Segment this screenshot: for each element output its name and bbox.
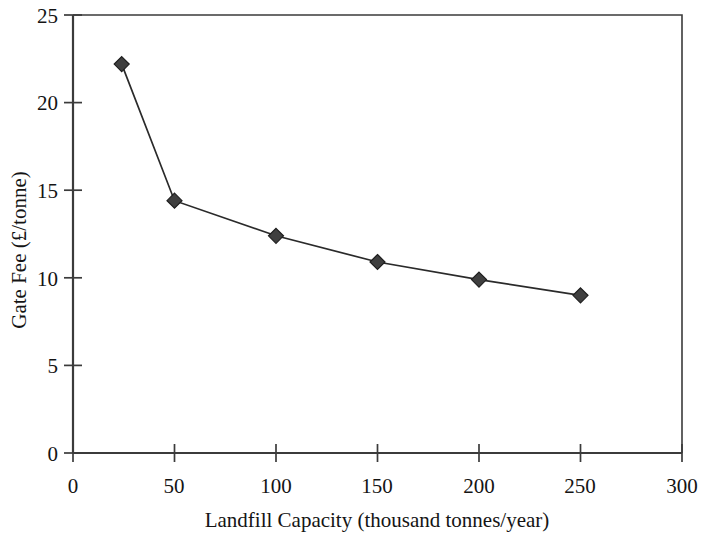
- y-tick-label-5: 5: [48, 354, 59, 378]
- y-tick-label-15: 15: [37, 179, 58, 203]
- x-tick-label-50: 50: [164, 474, 185, 498]
- data-point-marker: [167, 193, 182, 208]
- y-axis-tick-labels: 0 5 10 15 20 25: [37, 4, 58, 466]
- data-series-gate-fee: [114, 57, 588, 303]
- y-tick-label-0: 0: [48, 442, 59, 466]
- x-tick-label-250: 250: [564, 474, 596, 498]
- series-markers: [114, 57, 588, 303]
- x-tick-label-150: 150: [361, 474, 393, 498]
- series-line: [122, 64, 581, 295]
- data-point-marker: [114, 57, 129, 72]
- y-tick-label-10: 10: [37, 267, 58, 291]
- chart-container: 0 5 10 15 20 25 0 50 100 150 200 250 300: [0, 0, 702, 534]
- data-point-marker: [370, 255, 385, 270]
- data-point-marker: [573, 288, 588, 303]
- x-tick-label-100: 100: [260, 474, 292, 498]
- data-point-marker: [472, 272, 487, 287]
- line-chart: 0 5 10 15 20 25 0 50 100 150 200 250 300: [0, 0, 702, 534]
- x-tick-label-300: 300: [666, 474, 698, 498]
- x-tick-label-200: 200: [463, 474, 495, 498]
- x-tick-label-0: 0: [68, 474, 79, 498]
- data-point-marker: [269, 228, 284, 243]
- y-axis-title: Gate Fee (£/tonne): [7, 171, 31, 328]
- plot-frame: [73, 15, 682, 453]
- y-tick-label-25: 25: [37, 4, 58, 28]
- y-tick-label-20: 20: [37, 91, 58, 115]
- x-axis-tick-labels: 0 50 100 150 200 250 300: [68, 474, 698, 498]
- x-axis-title: Landfill Capacity (thousand tonnes/year): [205, 508, 550, 532]
